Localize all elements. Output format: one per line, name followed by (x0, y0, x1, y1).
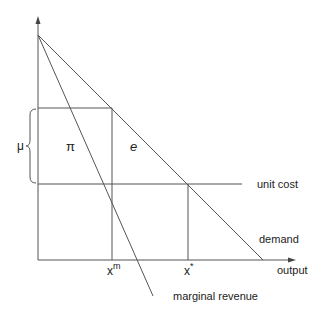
y-axis-arrow-icon (36, 16, 41, 24)
mu-brace (26, 109, 36, 183)
marginal-revenue-line (38, 35, 153, 296)
x-axis-arrow-icon (288, 258, 296, 263)
x-axis-label: output (277, 264, 308, 276)
profit-label: π (66, 139, 75, 154)
marginal-revenue-label: marginal revenue (173, 290, 258, 302)
monopoly-diagram: μ π e unit cost demand output marginal r… (0, 0, 320, 318)
x-star-sup: * (190, 261, 194, 271)
e-label: e (130, 139, 137, 154)
unit-cost-label: unit cost (257, 178, 298, 190)
x-m-sup: m (113, 261, 121, 271)
x-star-label: x* (184, 261, 194, 278)
demand-label: demand (259, 233, 299, 245)
mu-label: μ (17, 139, 24, 153)
x-m-label: xm (107, 261, 121, 278)
